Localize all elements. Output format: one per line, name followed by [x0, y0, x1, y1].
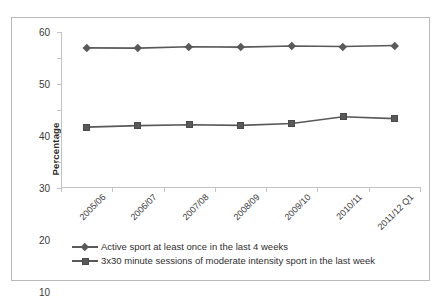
x-tick-label: 2007/08 [180, 192, 210, 222]
plot-area: 0102030405060 2005/062006/072007/082008/… [61, 32, 420, 188]
y-tick-label: 40 [39, 131, 50, 142]
x-tick-label: 2011/12 Q1 [376, 192, 416, 232]
legend-marker-diamond-icon [72, 241, 98, 252]
y-axis-title: Percentage [50, 122, 61, 175]
x-tick [420, 187, 421, 192]
data-point-marker [288, 120, 295, 127]
data-point-marker [237, 122, 244, 129]
y-tick-label: 60 [39, 27, 50, 38]
data-point-marker [340, 113, 347, 120]
y-tick-label: 20 [39, 235, 50, 246]
x-tick-label: 2009/10 [283, 192, 313, 222]
x-tick-label: 2005/06 [78, 192, 108, 222]
y-tick-label: 50 [39, 79, 50, 90]
x-tick-label: 2008/09 [231, 192, 261, 222]
data-point-marker [83, 124, 90, 131]
legend-label: Active sport at least once in the last 4… [101, 241, 288, 252]
data-point-marker [186, 121, 193, 128]
y-tick-label: 30 [39, 183, 50, 194]
legend-item[interactable]: 3x30 minute sessions of moderate intensi… [72, 254, 412, 267]
data-point-marker [134, 122, 141, 129]
y-tick-label: 10 [39, 287, 50, 296]
legend-item[interactable]: Active sport at least once in the last 4… [72, 240, 412, 253]
legend-label: 3x30 minute sessions of moderate intensi… [101, 255, 375, 266]
x-tick-label: 2010/11 [335, 192, 365, 222]
x-tick-label: 2006/07 [129, 192, 159, 222]
data-point-marker [391, 115, 398, 122]
chart-figure: Percentage 0102030405060 2005/062006/072… [11, 17, 430, 281]
series-layer [61, 32, 420, 188]
chart-legend: Active sport at least once in the last 4… [72, 240, 412, 268]
legend-marker-square-icon [72, 255, 98, 266]
